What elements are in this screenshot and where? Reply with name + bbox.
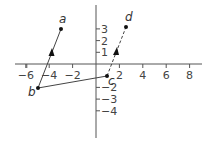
label-d: d — [125, 10, 133, 24]
point-a — [59, 27, 63, 31]
point-b — [36, 86, 40, 90]
x-tick-label: −2 — [64, 69, 80, 82]
x-tick-label: −6 — [18, 69, 34, 82]
x-tick-label: 2 — [116, 69, 123, 82]
y-tick-label: −4 — [101, 105, 117, 118]
diagram-canvas: −6−4−22468 321−2−3−4 a b c d — [0, 0, 212, 142]
y-tick-group: 321−2−3−4 — [96, 23, 117, 118]
x-tick-label: 4 — [139, 69, 146, 82]
point-d — [124, 25, 128, 29]
y-tick-label: 1 — [101, 46, 108, 59]
label-a: a — [59, 12, 66, 26]
x-tick-label: −4 — [41, 69, 57, 82]
x-tick-label: 6 — [163, 69, 170, 82]
x-tick-label: 8 — [186, 69, 193, 82]
label-c: c — [108, 74, 115, 88]
arrow-icon-c-d — [113, 47, 119, 55]
coordinate-plane-diagram: −6−4−22468 321−2−3−4 a b c d — [0, 0, 212, 142]
label-b: b — [28, 85, 36, 99]
